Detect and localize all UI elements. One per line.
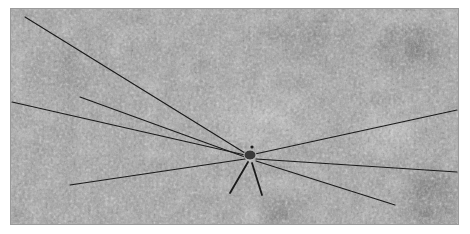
leg	[230, 162, 248, 193]
leg	[252, 163, 262, 195]
leg	[255, 110, 457, 154]
leg	[70, 159, 245, 185]
harvestman	[0, 0, 470, 234]
body	[244, 150, 256, 160]
leg	[80, 97, 245, 157]
leg	[25, 17, 245, 153]
leg	[256, 161, 395, 205]
eye-turret	[250, 145, 253, 148]
leg	[12, 102, 245, 155]
